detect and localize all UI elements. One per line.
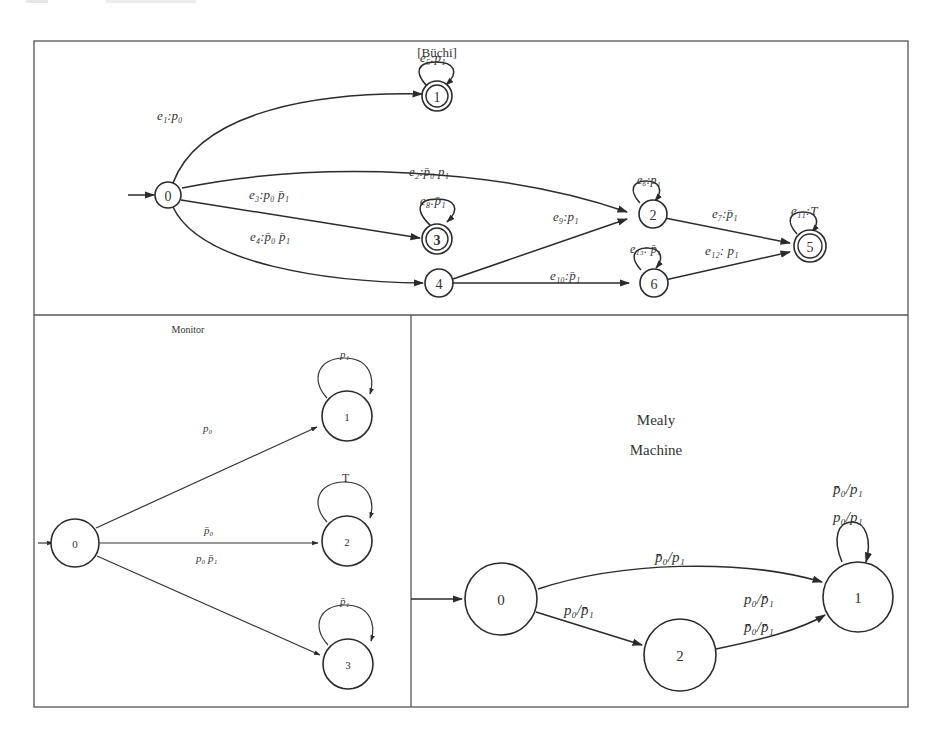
monitor-edge-to-3 bbox=[97, 556, 320, 655]
monitor-state-1: 1 bbox=[322, 391, 372, 441]
monitor-title: Monitor bbox=[172, 324, 205, 335]
svg-text:3: 3 bbox=[345, 659, 351, 671]
mealy-title-line2: Machine bbox=[630, 442, 683, 458]
mealy-edge-0-1 bbox=[538, 566, 822, 589]
buchi-label-e5: e₅:p₁ bbox=[420, 50, 446, 65]
buchi-label-e6: e₆:p₁ bbox=[637, 173, 661, 187]
svg-text:3: 3 bbox=[434, 233, 441, 248]
svg-text:0: 0 bbox=[497, 592, 505, 608]
monitor-label-to-2-b: p₀ p̄₁ bbox=[195, 552, 218, 564]
buchi-state-5: 5 bbox=[794, 230, 826, 262]
buchi-label-e11: e₁₁:T bbox=[791, 203, 818, 218]
svg-text:0: 0 bbox=[72, 538, 78, 550]
buchi-label-e13: e₁₃: p̄₁ bbox=[630, 242, 661, 256]
svg-text:2: 2 bbox=[344, 536, 350, 548]
buchi-label-e2: e₂:p̄₀ p₁ bbox=[409, 164, 449, 179]
mealy-label-loop-1-b: p₀/p₁ bbox=[832, 509, 863, 525]
buchi-state-6: 6 bbox=[640, 269, 668, 297]
monitor-label-loop-1: p₁ bbox=[339, 348, 350, 360]
svg-text:5: 5 bbox=[807, 240, 814, 255]
mealy-machine: Mealy Machine 0 1 2 p̄₀/p₁ p₀/p̄₁ p₀/p̄₁… bbox=[411, 412, 893, 691]
svg-text:1: 1 bbox=[434, 90, 441, 105]
mealy-state-2: 2 bbox=[644, 619, 716, 691]
buchi-edge-e9 bbox=[453, 219, 627, 279]
mealy-label-0-1: p̄₀/p₁ bbox=[654, 549, 685, 565]
cropped-header bbox=[26, 0, 196, 3]
svg-text:6: 6 bbox=[651, 277, 658, 292]
buchi-state-4: 4 bbox=[425, 269, 453, 297]
buchi-label-e4: e₄:p̄₀ p̄₁ bbox=[250, 229, 290, 244]
monitor-label-loop-3: p̄₁ bbox=[339, 595, 350, 607]
monitor-edge-to-1 bbox=[96, 427, 317, 528]
buchi-edge-e1 bbox=[173, 94, 422, 183]
monitor-label-to-2-a: p̄₀ bbox=[203, 524, 214, 536]
monitor-automaton: Monitor 0 1 2 3 p₀ p̄₀ p₀ p̄₁ p₁ T p̄₁ bbox=[38, 324, 373, 689]
buchi-automaton: [Büchi] 0 1 3 bbox=[128, 45, 826, 297]
monitor-label-to-1: p₀ bbox=[202, 422, 213, 434]
monitor-state-2: 2 bbox=[322, 516, 372, 566]
buchi-label-e10: e₁₀:p̄₁ bbox=[550, 268, 580, 283]
mealy-state-1: 1 bbox=[823, 562, 893, 632]
buchi-state-1: 1 bbox=[422, 81, 452, 111]
buchi-label-e8: e₈:p̄₁ bbox=[420, 193, 446, 208]
mealy-label-2-1-a: p₀/p̄₁ bbox=[743, 591, 774, 607]
monitor-label-loop-2: T bbox=[342, 471, 350, 485]
buchi-state-0: 0 bbox=[155, 182, 181, 208]
monitor-state-3: 3 bbox=[323, 639, 373, 689]
mealy-label-loop-1-a: p̄₀/p₁ bbox=[832, 481, 863, 497]
mealy-state-0: 0 bbox=[465, 563, 537, 635]
svg-text:2: 2 bbox=[650, 208, 657, 223]
svg-text:1: 1 bbox=[344, 411, 350, 423]
buchi-edge-e3 bbox=[181, 200, 420, 238]
buchi-label-e12: e₁₂: p₁ bbox=[705, 243, 738, 258]
buchi-state-2: 2 bbox=[639, 200, 667, 228]
mealy-loop-1 bbox=[837, 522, 868, 562]
mealy-label-2-1-b: p̄₀/p̄₁ bbox=[743, 619, 774, 635]
svg-text:0: 0 bbox=[165, 189, 172, 204]
buchi-label-e1: e₁:p₀ bbox=[157, 108, 183, 123]
svg-text:4: 4 bbox=[436, 277, 443, 292]
buchi-edge-e7 bbox=[665, 218, 790, 243]
svg-text:2: 2 bbox=[676, 648, 684, 664]
svg-text:1: 1 bbox=[854, 590, 862, 606]
mealy-title-line1: Mealy bbox=[637, 412, 676, 428]
buchi-label-e7: e₇:p̄₁ bbox=[712, 206, 738, 221]
mealy-label-0-2: p₀/p̄₁ bbox=[563, 602, 594, 618]
monitor-state-0: 0 bbox=[51, 519, 99, 567]
buchi-label-e9: e₉:p₁ bbox=[553, 209, 579, 224]
automata-figure: [Büchi] 0 1 3 bbox=[0, 0, 943, 739]
buchi-label-e3: e₃:p₀ p̄₁ bbox=[249, 187, 289, 202]
buchi-state-3: 3 bbox=[422, 224, 452, 254]
